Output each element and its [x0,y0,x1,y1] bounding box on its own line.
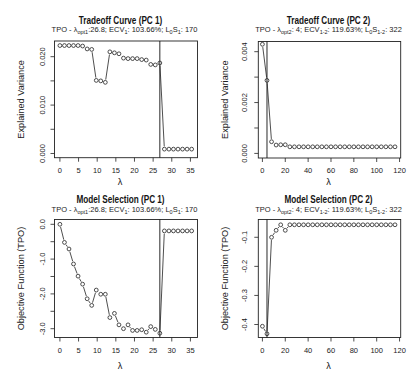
subtitle-part: : 119.63%; L [328,25,370,34]
x-tick-label: 25 [149,346,157,355]
subtitle-subscript: opt2 [281,29,292,35]
x-tick-label: 100 [370,166,383,175]
x-tick-label: 60 [327,346,335,355]
y-tick-label: -0.2 [240,260,249,273]
y-tick-label: 0.002 [240,93,249,112]
x-tick-label: 10 [93,346,101,355]
x-axis-label: λ [326,177,331,187]
subtitle-part: TPO - λ [255,205,281,214]
y-tick-label: 0.0 [38,219,47,229]
subtitle-subscript: opt1 [77,209,88,215]
y-tick-label: -0.4 [240,318,249,331]
x-tick-label: 0 [260,166,264,175]
y-tick-label: -1.0 [38,253,47,266]
y-tick-label: -0.3 [240,289,249,302]
y-tick-label: 0.000 [38,144,47,163]
x-tick-label: 10 [93,166,101,175]
subtitle-part: : 170 [181,205,198,214]
x-tick-label: 60 [327,166,335,175]
y-tick-label: 0.010 [38,96,47,115]
panel-title: Model Selection (PC 2) [284,193,372,205]
x-tick-label: 30 [168,166,176,175]
x-tick-label: 35 [186,346,194,355]
subtitle-subscript: opt2 [281,209,292,215]
x-tick-label: 25 [149,166,157,175]
x-axis-label: λ [118,177,123,187]
subtitle-part: : 4; ECV [292,205,320,214]
y-tick-label: 0.004 [240,42,249,61]
x-tick-label: 120 [393,166,406,175]
x-tick-label: 20 [281,166,289,175]
x-tick-label: 30 [168,346,176,355]
panel-title: Model Selection (PC 1) [76,193,164,205]
y-axis-label: Objective Function (TPO) [16,227,26,331]
x-tick-label: 15 [112,346,120,355]
subtitle-part: :26.8; ECV [88,25,124,34]
panel-title: Tradeoff Curve (PC 1) [79,13,163,25]
x-tick-label: 80 [350,166,358,175]
subtitle-part: : 170 [181,25,198,34]
subtitle-part: : 103.66%; L [127,205,169,214]
y-tick-label: -2.0 [38,287,47,300]
y-axis-label: Explained Variance [16,60,26,138]
x-tick-label: 5 [76,166,80,175]
y-tick-label: 0.020 [38,47,47,66]
x-tick-label: 40 [304,166,312,175]
subtitle-part: : 322 [385,25,402,34]
subtitle-part: : 103.66%; L [127,25,169,34]
subtitle-part: TPO - λ [255,25,281,34]
subtitle-part: :26.8; ECV [88,205,124,214]
x-tick-label: 80 [350,346,358,355]
panel-title: Tradeoff Curve (PC 2) [287,13,371,25]
x-axis-label: λ [118,361,123,371]
subtitle-subscript: 1-2 [320,29,328,35]
y-axis-label: Explained Variance [220,60,230,138]
x-tick-label: 35 [186,166,194,175]
figure-background [0,0,419,380]
y-tick-label: 0.000 [240,144,249,163]
x-tick-label: 20 [130,346,138,355]
x-tick-label: 100 [370,346,383,355]
subtitle-part: TPO - λ [52,205,78,214]
x-tick-label: 20 [130,166,138,175]
x-tick-label: 0 [260,346,264,355]
subtitle-part: : 4; ECV [292,25,320,34]
x-tick-label: 40 [304,346,312,355]
x-tick-label: 5 [76,346,80,355]
subtitle-subscript: 1-2 [377,29,385,35]
y-tick-label: -3.0 [38,322,47,335]
subtitle-subscript: 1-2 [377,209,385,215]
y-tick-label: -0.1 [240,231,249,244]
subtitle-subscript: opt1 [77,29,88,35]
x-tick-label: 20 [281,346,289,355]
x-axis-label: λ [326,361,331,371]
x-tick-label: 0 [58,166,62,175]
subtitle-part: : 119.63%; L [328,205,370,214]
x-tick-label: 120 [393,346,406,355]
subtitle-subscript: 1-2 [320,209,328,215]
subtitle-part: : 322 [385,205,402,214]
x-tick-label: 15 [112,166,120,175]
x-tick-label: 0 [58,346,62,355]
figure: Tradeoff Curve (PC 1) TPO - λopt1:26.8; … [0,0,419,380]
subtitle-part: TPO - λ [52,25,78,34]
y-axis-label: Objective Function (TPO) [220,227,230,331]
